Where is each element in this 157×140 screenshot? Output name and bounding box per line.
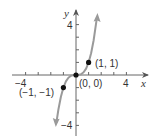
point-label-pos: (1, 1) [95, 58, 118, 69]
cubic-curve [57, 18, 97, 122]
cubic-function-graph: y x 4 −4 −4 4 (−1, −1) (0, 0) (1, 1) [0, 0, 157, 140]
x-axis-label: x [140, 77, 146, 89]
point-label-origin: (0, 0) [79, 78, 102, 89]
x-tick-label-4: 4 [123, 78, 129, 89]
point-label-neg: (−1, −1) [19, 87, 54, 98]
y-axis-label: y [63, 7, 69, 19]
point-neg1-neg1 [61, 85, 66, 90]
point-1-1 [86, 60, 91, 65]
point-origin [73, 72, 78, 77]
y-tick-label-neg4: −4 [61, 120, 73, 131]
y-tick-label-4: 4 [67, 20, 73, 31]
